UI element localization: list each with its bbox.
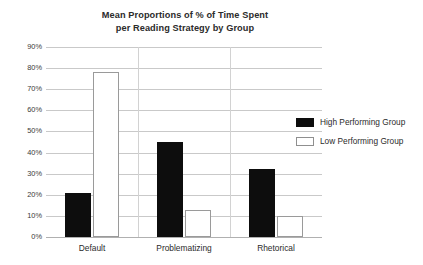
y-axis-tick-label: 20% bbox=[6, 191, 42, 199]
legend-item-low-performing-group: Low Performing Group bbox=[296, 133, 405, 149]
chart-title-line-1: Mean Proportions of % of Time Spent bbox=[40, 9, 330, 22]
bar-rhetorical-low-performing-group bbox=[277, 216, 303, 237]
bar-chart: Mean Proportions of % of Time Spent per … bbox=[0, 0, 423, 265]
bar-default-low-performing-group bbox=[93, 72, 119, 237]
gridline-70 bbox=[46, 89, 322, 90]
y-axis-tick-label: 70% bbox=[6, 85, 42, 93]
y-axis-tick-label: 60% bbox=[6, 106, 42, 114]
y-axis-tick-label: 0% bbox=[6, 233, 42, 241]
y-axis-tick-label: 50% bbox=[6, 127, 42, 135]
chart-title: Mean Proportions of % of Time Spent per … bbox=[40, 9, 330, 34]
gridline-80 bbox=[46, 68, 322, 69]
gridline-0 bbox=[46, 237, 322, 238]
gridline-60 bbox=[46, 110, 322, 111]
bar-rhetorical-high-performing-group bbox=[249, 169, 275, 237]
plot-area bbox=[46, 47, 322, 237]
category-separator bbox=[138, 47, 139, 237]
x-axis-label-rhetorical: Rhetorical bbox=[230, 243, 322, 253]
legend-swatch-low-performing-group bbox=[296, 137, 314, 146]
chart-title-line-2: per Reading Strategy by Group bbox=[40, 22, 330, 35]
bar-problematizing-high-performing-group bbox=[157, 142, 183, 237]
y-axis-tick-label: 10% bbox=[6, 212, 42, 220]
x-axis-label-default: Default bbox=[46, 243, 138, 253]
x-axis-label-problematizing: Problematizing bbox=[138, 243, 230, 253]
category-separator bbox=[230, 47, 231, 237]
gridline-30 bbox=[46, 174, 322, 175]
chart-legend: High Performing Group Low Performing Gro… bbox=[296, 114, 405, 152]
legend-label-low-performing-group: Low Performing Group bbox=[320, 137, 403, 146]
gridline-50 bbox=[46, 131, 322, 132]
gridline-40 bbox=[46, 153, 322, 154]
legend-label-high-performing-group: High Performing Group bbox=[320, 118, 405, 127]
bar-default-high-performing-group bbox=[65, 193, 91, 237]
y-axis-tick-label: 40% bbox=[6, 149, 42, 157]
gridline-90 bbox=[46, 47, 322, 48]
legend-swatch-high-performing-group bbox=[296, 118, 314, 127]
y-axis-tick-label: 90% bbox=[6, 43, 42, 51]
y-axis-tick-label: 30% bbox=[6, 170, 42, 178]
y-axis-tick-label: 80% bbox=[6, 64, 42, 72]
legend-item-high-performing-group: High Performing Group bbox=[296, 114, 405, 130]
bar-problematizing-low-performing-group bbox=[185, 210, 211, 237]
